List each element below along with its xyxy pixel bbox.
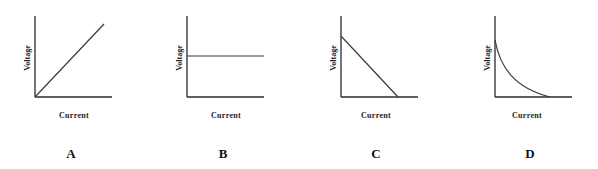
proportional-line [35,24,104,97]
y-axis-label: Voltage [23,45,32,71]
x-axis-label: Current [361,111,391,120]
panel-c: Voltage Current C [329,16,418,161]
panel-a: Voltage Current A [23,16,112,161]
x-axis-label: Current [59,111,89,120]
y-axis-label: Voltage [329,45,338,71]
decreasing-line [341,36,398,97]
panel-letter: A [66,146,76,161]
panel-b: Voltage Current B [175,16,264,161]
panel-letter: D [525,146,534,161]
panel-d: Voltage Current D [483,16,572,161]
y-axis-label: Voltage [483,45,492,71]
decay-curve [495,40,550,97]
panel-letter: B [219,146,228,161]
y-axis-label: Voltage [175,45,184,71]
x-axis-label: Current [211,111,241,120]
panel-letter: C [371,146,380,161]
x-axis-label: Current [512,111,542,120]
voltage-current-graphs: Voltage Current A Voltage Current B Volt… [0,0,598,169]
